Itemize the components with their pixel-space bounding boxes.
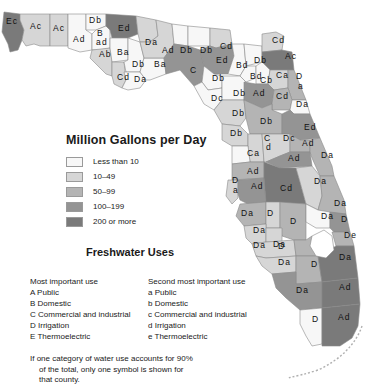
county-label: Ad: [302, 138, 315, 148]
legend-title: Million Gallons per Day: [66, 133, 207, 147]
county-label: Db: [233, 88, 246, 98]
secondary-use-item: d Irrigation: [148, 320, 247, 331]
county-label: Ca: [276, 70, 289, 80]
county-label: Da: [278, 257, 291, 267]
county-label: Ba: [117, 47, 130, 57]
county-label: a: [298, 81, 304, 91]
secondary-use-item: c Commercial and industrial: [148, 309, 247, 320]
county-label: Ba: [154, 59, 167, 69]
county-label: Ac: [30, 21, 42, 31]
county-label: Db: [200, 45, 213, 55]
county-label: Ad: [247, 166, 260, 176]
county-label: D: [232, 175, 239, 185]
county-label: D: [278, 241, 285, 251]
county-label: a: [233, 185, 239, 195]
county-label: D: [341, 214, 348, 224]
county-label: Ab: [99, 49, 112, 59]
county-label: Da: [334, 198, 347, 208]
primary-use-item: B Domestic: [30, 298, 130, 309]
county-label: Da: [339, 252, 352, 262]
county-label: Ad: [253, 88, 266, 98]
secondary-use-item: e Thermoelectric: [148, 331, 247, 342]
legend-item-less-than-10: Less than 10: [66, 154, 139, 169]
county-label: Bd: [236, 60, 249, 70]
uses-title: Freshwater Uses: [86, 246, 174, 258]
county-label: Db: [232, 108, 245, 118]
county-label: Da: [321, 211, 334, 221]
county-label: Ad: [251, 181, 264, 191]
legend: Less than 10 10–49 50–99 100–199 200 or …: [66, 154, 139, 229]
county-label: Db: [89, 15, 102, 25]
county-label: Da: [253, 225, 266, 235]
county-label: Db: [212, 73, 225, 83]
county-label: Da: [253, 240, 266, 250]
legend-label: 50–99: [93, 187, 115, 196]
legend-item-100-199: 100–199: [66, 199, 139, 214]
county-label: Ac: [53, 23, 65, 33]
county-label: Ca: [247, 148, 260, 158]
county-label: ad: [96, 37, 108, 47]
legend-label: Less than 10: [93, 157, 139, 166]
primary-use-item: E Thermoelectric: [30, 331, 130, 342]
county-label: D: [311, 259, 318, 269]
county-label: Ad: [73, 34, 86, 44]
footnote-line: If one category of water use accounts fo…: [30, 354, 270, 365]
primary-use-heading: Most important use: [30, 276, 130, 287]
county-label: D: [267, 208, 274, 218]
legend-swatch: [66, 217, 83, 227]
county-label: Db: [132, 59, 145, 69]
county-label: D: [290, 216, 297, 226]
county-label: Cd: [272, 35, 285, 45]
legend-swatch: [66, 157, 83, 167]
secondary-use-item: a Public: [148, 287, 247, 298]
legend-label: 100–199: [93, 202, 124, 211]
primary-use-item: D Irrigation: [30, 320, 130, 331]
county-label: Ad: [339, 282, 352, 292]
county-label: Ac: [285, 51, 297, 61]
county-label: Dc: [283, 133, 296, 143]
county-label: Da: [296, 99, 309, 109]
county-label: d: [266, 142, 272, 152]
county-label: C: [190, 65, 197, 75]
county-dade: [322, 304, 360, 346]
footnote-line: that county.: [30, 375, 270, 386]
county-label: Ad: [162, 45, 175, 55]
county-label: Dc: [211, 93, 224, 103]
county-label: Ec: [6, 16, 18, 26]
county-label: Cb: [260, 75, 273, 85]
county-label: Da: [321, 150, 334, 160]
county-label: Db: [230, 128, 243, 138]
county-label: De: [344, 230, 357, 240]
footnote-line: of the total, only one symbol is shown f…: [30, 365, 270, 376]
primary-use-key: Most important use A Public B Domestic C…: [30, 276, 130, 342]
county-label: Da: [145, 37, 158, 47]
county-label: D: [296, 71, 303, 81]
county-label: D: [312, 314, 319, 324]
legend-item-50-99: 50–99: [66, 184, 139, 199]
legend-swatch: [66, 202, 83, 212]
county-label: Cd: [220, 41, 233, 51]
county-label: Da: [134, 74, 147, 84]
county-label: Ed: [118, 23, 131, 33]
county-label: Ed: [216, 55, 229, 65]
county-label: Cd: [280, 183, 293, 193]
primary-use-item: C Commercial and industrial: [30, 309, 130, 320]
legend-swatch: [66, 172, 83, 182]
legend-swatch: [66, 187, 83, 197]
county-label: Da: [241, 208, 254, 218]
county-label: Ad: [338, 312, 351, 322]
county-label: Cd: [117, 72, 130, 82]
county-label: Db: [260, 116, 273, 126]
footnote: If one category of water use accounts fo…: [30, 354, 270, 386]
legend-label: 200 or more: [93, 217, 136, 226]
county-label: Cd: [276, 91, 289, 101]
county-label: Da: [296, 285, 309, 295]
county-label: Ad: [288, 153, 301, 163]
secondary-use-item: b Domestic: [148, 298, 247, 309]
county-label: Db: [180, 45, 193, 55]
primary-use-item: A Public: [30, 287, 130, 298]
legend-item-10-49: 10–49: [66, 169, 139, 184]
secondary-use-heading: Second most important use: [148, 276, 247, 287]
secondary-use-key: Second most important use a Public b Dom…: [148, 276, 247, 342]
legend-item-200-or-more: 200 or more: [66, 214, 139, 229]
